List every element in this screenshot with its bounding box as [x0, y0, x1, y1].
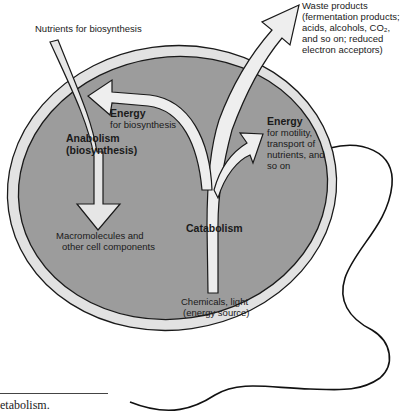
- energy-biosynthesis-title: Energy: [110, 107, 146, 119]
- energy-motility-title: Energy: [267, 115, 303, 127]
- energy-biosynthesis-sub: for biosynthesis: [110, 119, 176, 130]
- energy-motility-line1: for motility,: [267, 127, 312, 138]
- waste-label-line5: electron acceptors): [302, 44, 383, 55]
- energy-source-label-line1: Chemicals, light: [181, 296, 248, 307]
- figure-caption-fragment: etabolism.: [0, 398, 50, 413]
- waste-label-line3: acids, alcohols, CO₂,: [302, 22, 390, 33]
- nutrients-label: Nutrients for biosynthesis: [35, 23, 142, 34]
- energy-motility-line3: nutrients, and: [267, 149, 325, 160]
- waste-label-line2: (fermentation products;: [302, 11, 400, 22]
- waste-label-line1: Waste products: [302, 0, 368, 11]
- energy-source-label-line2: (energy source): [183, 307, 250, 318]
- catabolism-label: Catabolism: [186, 222, 243, 234]
- macromolecules-label-line2: other cell components: [62, 241, 155, 252]
- energy-motility-line2: transport of: [267, 138, 315, 149]
- anabolism-label: Anabolism: [66, 132, 120, 144]
- energy-motility-line4: so on: [267, 160, 290, 171]
- cell-cytoplasm: [1, 37, 344, 340]
- macromolecules-label-line1: Macromolecules and: [56, 230, 144, 241]
- waste-label-line4: and so on; reduced: [302, 33, 383, 44]
- anabolism-sub-label: (biosynthesis): [66, 144, 137, 156]
- caption-rule: [0, 393, 108, 394]
- metabolism-diagram: [0, 0, 401, 414]
